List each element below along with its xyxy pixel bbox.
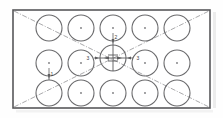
hole-center-dot-r3c3 xyxy=(112,92,114,94)
dim-leftcol-label: 1 xyxy=(51,71,54,77)
dim-right-label: 3 xyxy=(137,55,140,61)
hole-center-dot-r2c5 xyxy=(176,62,178,64)
hole-center-dot-r3c4 xyxy=(144,92,146,94)
hole-center-dot-r1c4 xyxy=(144,27,146,29)
page-edge-shadow-right xyxy=(213,12,216,108)
dim-left-label: 3 xyxy=(87,55,90,61)
hole-center-dot-r1c3 xyxy=(112,27,114,29)
hole-pattern-drawing: 3 3 2 1 xyxy=(0,0,223,118)
page-edge-shadow-bottom xyxy=(16,110,213,113)
hole-center-dot-r1c2 xyxy=(80,27,82,29)
dim-above-label: 2 xyxy=(115,34,118,40)
technical-drawing-canvas: 3 3 2 1 xyxy=(0,0,223,118)
hole-center-dot-r2c4 xyxy=(144,62,146,64)
hole-center-dot-r2c2 xyxy=(80,62,82,64)
hole-center-dot-r3c2 xyxy=(80,92,82,94)
hole-center-dot-r2c1 xyxy=(48,62,50,64)
